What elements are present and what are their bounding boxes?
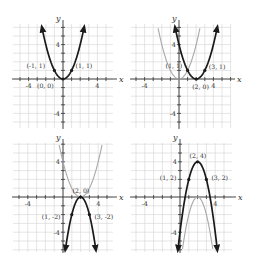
y-tick-label: 4 [172, 41, 176, 49]
x-tick-label: -4 [142, 200, 148, 208]
panel-bottom-right: xy-444-4(2, 4)(1, 2)(3, 2) [130, 133, 243, 253]
data-point [88, 213, 91, 216]
point-label: (1, 1) [166, 62, 183, 69]
point-label: (0, 0) [37, 82, 54, 89]
data-point [203, 69, 206, 72]
point-label: (2, 4) [190, 152, 207, 159]
y-tick-label: 4 [173, 158, 177, 166]
x-axis-label: x [238, 193, 243, 202]
grid [131, 24, 231, 128]
x-axis-label: x [119, 75, 124, 84]
data-point [61, 77, 64, 80]
x-tick-label: 4 [213, 200, 217, 208]
point-label: (3, 2) [211, 174, 228, 181]
point-label: (1, 1) [76, 62, 93, 69]
panel-top-right: xy-444-4(1, 1)(3, 1)(2, 0) [130, 14, 242, 129]
y-axis-label: y [171, 14, 177, 23]
y-axis-label: y [172, 133, 178, 142]
x-tick-label: 4 [96, 200, 100, 208]
x-tick-label: -4 [25, 200, 31, 208]
panel-bottom-left: xy-444-4(2, 0)(1, -2)(3, -2) [12, 133, 124, 253]
point-label: (3, -2) [94, 213, 113, 220]
point-label: (3, 1) [209, 63, 226, 70]
point-label: (-1, 1) [26, 62, 45, 69]
grid [131, 143, 232, 252]
y-axis-label: y [55, 14, 61, 23]
data-point [196, 160, 199, 163]
data-point [70, 69, 73, 72]
data-point [79, 195, 82, 198]
y-axis-label: y [55, 133, 61, 142]
x-tick-label: -4 [141, 82, 147, 90]
x-tick-label: 4 [95, 82, 99, 90]
point-label: (2, 0) [192, 83, 209, 90]
x-tick-label: -4 [25, 82, 31, 90]
four-panel-parabola-figure: xy-444-4(-1, 1)(1, 1)(0, 0) xy-444-4(1, … [0, 0, 254, 260]
data-point [205, 178, 208, 181]
point-label: (2, 0) [73, 187, 90, 194]
data-point [195, 77, 198, 80]
y-tick-label: -4 [54, 229, 60, 237]
y-tick-label: -4 [171, 229, 177, 237]
data-point [53, 69, 56, 72]
point-label: (1, 2) [160, 174, 177, 181]
y-tick-label: 4 [56, 158, 60, 166]
data-point [187, 178, 190, 181]
x-tick-label: 4 [211, 82, 215, 90]
figure: xy-444-4(-1, 1)(1, 1)(0, 0) xy-444-4(1, … [0, 0, 254, 260]
y-tick-label: -4 [54, 110, 60, 118]
y-tick-label: -4 [170, 110, 176, 118]
data-point [70, 213, 73, 216]
y-tick-label: 4 [56, 41, 60, 49]
panel-top-left: xy-444-4(-1, 1)(1, 1)(0, 0) [12, 14, 124, 129]
x-axis-label: x [237, 75, 242, 84]
data-point [186, 69, 189, 72]
x-axis-label: x [119, 193, 124, 202]
point-label: (1, -2) [42, 213, 61, 220]
